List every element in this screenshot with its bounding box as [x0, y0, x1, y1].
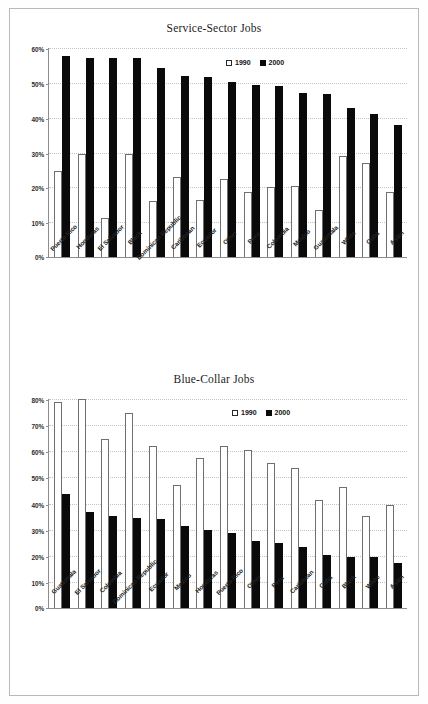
legend-label-2000: 2000: [275, 409, 291, 416]
bar-2000: [133, 58, 141, 257]
chart-title-service-sector: Service-Sector Jobs: [10, 11, 418, 34]
x-axis-category: Dominican Republic: [144, 233, 168, 293]
plot-area-service-sector: 60%50%40%30%20%10%0%: [48, 48, 407, 258]
x-axis-category: Honduras: [192, 577, 216, 637]
y-axis-tick-label-blue-collar: 10%: [32, 579, 45, 586]
y-axis-tick-label-blue-collar: 40%: [32, 501, 45, 508]
x-axis-category: Caribbean: [168, 233, 192, 293]
y-axis-tick-label-service-sector: 40%: [32, 115, 45, 122]
y-axis-tick-label-service-sector: 30%: [32, 150, 45, 157]
y-axis-tick-label-service-sector: 10%: [32, 220, 45, 227]
x-axis-category: Puerto Rico: [49, 233, 73, 293]
x-axis-category: White: [335, 233, 359, 293]
x-axis-category: Peru: [263, 577, 287, 637]
y-axis-tick-label-blue-collar: 0%: [35, 605, 44, 612]
x-axis-category: Caribbean: [287, 577, 311, 637]
open-square-icon: [232, 410, 238, 416]
filled-square-icon: [266, 410, 272, 416]
y-axis-tick-label-service-sector: 60%: [32, 46, 45, 53]
x-axis-category: Guatemala: [311, 233, 335, 293]
x-axis-category: Black: [335, 577, 359, 637]
bar-group: [240, 48, 264, 257]
bar-group: [335, 48, 359, 257]
x-axis-labels-blue-collar: GuatemalaEl SalvadorColombiaDominican Re…: [48, 577, 407, 637]
x-axis-category: Mexico: [287, 233, 311, 293]
x-axis-category: White: [358, 577, 382, 637]
y-axis-tick-label-blue-collar: 70%: [32, 423, 45, 430]
legend-item-2000: 2000: [260, 59, 285, 66]
y-axis-tick-label-blue-collar: 30%: [32, 527, 45, 534]
legend-blue-collar: 1990 2000: [232, 409, 290, 416]
chart-title-blue-collar: Blue-Collar Jobs: [10, 355, 418, 385]
legend-label-2000: 2000: [269, 59, 285, 66]
x-axis-category: Asian: [382, 577, 406, 637]
x-axis-category: Colombia: [97, 577, 121, 637]
x-axis-category: Ecuador: [192, 233, 216, 293]
x-axis-category: Cuba: [358, 233, 382, 293]
x-axis-labels-service-sector: Puerto RicoHondurasEl SalvadorBlackDomin…: [48, 233, 407, 293]
y-axis-tick-label-blue-collar: 60%: [32, 449, 45, 456]
bar-group: [287, 48, 311, 257]
legend-item-1990: 1990: [226, 59, 251, 66]
y-axis-tick-label-blue-collar: 20%: [32, 553, 45, 560]
bar-group: [216, 48, 240, 257]
open-square-icon: [226, 60, 232, 66]
legend-service-sector: 1990 2000: [226, 59, 284, 66]
y-axis-tick-label-service-sector: 50%: [32, 80, 45, 87]
x-axis-category: Honduras: [73, 233, 97, 293]
bar-group: [121, 48, 145, 257]
legend-label-1990: 1990: [241, 409, 257, 416]
x-axis-category: El Salvador: [97, 233, 121, 293]
x-axis-category-label: Peru: [246, 230, 261, 245]
x-axis-category: Cuba: [311, 577, 335, 637]
y-axis-tick-label-service-sector: 0%: [35, 254, 44, 261]
x-axis-category: Peru: [239, 233, 263, 293]
x-axis-category: Asian: [382, 233, 406, 293]
legend-item-2000: 2000: [266, 409, 291, 416]
x-axis-category: Puerto Rico: [216, 577, 240, 637]
page-frame: Service-Sector Jobs 1990 2000 60%50%40%3…: [9, 8, 419, 696]
bar-group: [382, 48, 406, 257]
x-axis-category: Colombia: [263, 233, 287, 293]
bar-group-container-service-sector: [49, 48, 407, 257]
x-axis-category: Ecuador: [144, 577, 168, 637]
legend-label-1990: 1990: [235, 59, 251, 66]
legend-item-1990: 1990: [232, 409, 257, 416]
y-axis-tick-label-blue-collar: 80%: [32, 397, 45, 404]
bar-group: [359, 48, 383, 257]
x-axis-category: Other: [239, 577, 263, 637]
x-axis-category: Black: [120, 233, 144, 293]
x-axis-category: Dominican Republic: [120, 577, 144, 637]
filled-square-icon: [260, 60, 266, 66]
chart-page: Service-Sector Jobs 1990 2000 60%50%40%3…: [0, 0, 428, 704]
y-axis-tick-label-service-sector: 20%: [32, 185, 45, 192]
chart-service-sector-jobs: Service-Sector Jobs 1990 2000 60%50%40%3…: [10, 11, 418, 351]
chart-blue-collar-jobs: Blue-Collar Jobs 1990 2000 80%70%60%50%4…: [10, 355, 418, 693]
x-axis-category: Mexico: [168, 577, 192, 637]
x-axis-category: Guatemala: [49, 577, 73, 637]
x-axis-category: Other: [216, 233, 240, 293]
y-axis-tick-label-blue-collar: 50%: [32, 475, 45, 482]
x-axis-category: El Salvador: [73, 577, 97, 637]
x-axis-category-label: Peru: [270, 574, 285, 589]
